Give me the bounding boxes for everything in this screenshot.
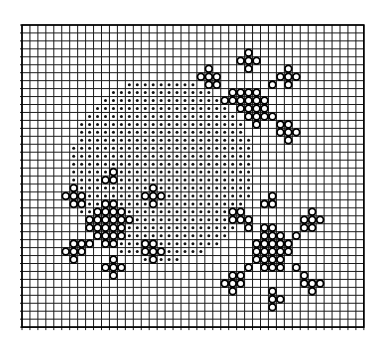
- ring-marker: [221, 97, 228, 104]
- ring-marker: [110, 177, 117, 184]
- ring-marker: [237, 89, 244, 96]
- ring-marker: [142, 248, 149, 255]
- ring-marker: [261, 105, 268, 112]
- ring-marker: [261, 264, 268, 271]
- ring-marker: [70, 185, 77, 192]
- ring-marker: [269, 200, 276, 207]
- ring-marker: [285, 248, 292, 255]
- ring-marker: [110, 216, 117, 223]
- ring-marker: [253, 256, 260, 263]
- ring-marker: [158, 248, 165, 255]
- ring-marker: [301, 280, 308, 287]
- ring-marker: [285, 65, 292, 72]
- ring-marker: [269, 240, 276, 247]
- ring-marker: [269, 264, 276, 271]
- ring-marker: [110, 208, 117, 215]
- ring-marker: [102, 232, 109, 239]
- ring-marker: [237, 97, 244, 104]
- ring-marker: [277, 296, 284, 303]
- ring-marker: [229, 208, 236, 215]
- ring-marker: [245, 97, 252, 104]
- ring-marker: [110, 264, 117, 271]
- ring-marker: [245, 57, 252, 64]
- ring-marker: [245, 65, 252, 72]
- ring-marker: [245, 224, 252, 231]
- ring-marker: [150, 185, 157, 192]
- ring-marker: [102, 208, 109, 215]
- ring-marker: [110, 256, 117, 263]
- ring-marker: [261, 232, 268, 239]
- ring-marker: [269, 256, 276, 263]
- ring-marker: [150, 248, 157, 255]
- ring-marker: [102, 216, 109, 223]
- ring-marker: [142, 193, 149, 200]
- ring-marker: [261, 97, 268, 104]
- ring-marker: [293, 232, 300, 239]
- ring-marker: [301, 272, 308, 279]
- ring-marker: [269, 224, 276, 231]
- ring-marker: [102, 200, 109, 207]
- ring-marker: [118, 208, 125, 215]
- ring-marker: [237, 57, 244, 64]
- ring-marker: [253, 248, 260, 255]
- ring-marker: [253, 105, 260, 112]
- ring-marker: [229, 272, 236, 279]
- ring-marker: [150, 200, 157, 207]
- ring-marker: [317, 280, 324, 287]
- ring-marker: [150, 256, 157, 263]
- ring-marker: [150, 240, 157, 247]
- ring-marker: [78, 200, 85, 207]
- ring-marker: [285, 129, 292, 136]
- ring-marker: [205, 81, 212, 88]
- ring-marker: [86, 216, 93, 223]
- ring-marker: [309, 216, 316, 223]
- ring-marker: [86, 224, 93, 231]
- ring-marker: [285, 137, 292, 144]
- ring-marker: [229, 280, 236, 287]
- ring-marker: [126, 216, 133, 223]
- ring-marker: [245, 105, 252, 112]
- ring-marker: [277, 256, 284, 263]
- ring-marker: [245, 113, 252, 120]
- ring-marker: [70, 240, 77, 247]
- ring-marker: [277, 121, 284, 128]
- ring-marker: [253, 97, 260, 104]
- ring-marker: [261, 240, 268, 247]
- ring-marker: [269, 248, 276, 255]
- ring-marker: [309, 288, 316, 295]
- ring-marker: [261, 248, 268, 255]
- ring-marker: [277, 129, 284, 136]
- ring-marker: [229, 288, 236, 295]
- ring-marker: [213, 81, 220, 88]
- ring-marker: [309, 280, 316, 287]
- ring-marker: [285, 121, 292, 128]
- ring-marker: [150, 193, 157, 200]
- ring-marker: [110, 272, 117, 279]
- ring-marker: [269, 296, 276, 303]
- ring-marker: [70, 200, 77, 207]
- ring-marker: [237, 216, 244, 223]
- ring-marker: [102, 224, 109, 231]
- ring-marker: [86, 240, 93, 247]
- ring-marker: [301, 216, 308, 223]
- ring-marker: [237, 208, 244, 215]
- ring-marker: [317, 216, 324, 223]
- ring-marker: [205, 65, 212, 72]
- ring-marker: [78, 193, 85, 200]
- ring-marker: [269, 113, 276, 120]
- ring-marker: [261, 200, 268, 207]
- ring-marker: [229, 97, 236, 104]
- ring-marker: [70, 248, 77, 255]
- ring-marker: [237, 105, 244, 112]
- ring-marker: [253, 57, 260, 64]
- ring-marker: [221, 280, 228, 287]
- ring-marker: [277, 248, 284, 255]
- ring-marker: [110, 240, 117, 247]
- ring-marker: [102, 264, 109, 271]
- ring-marker: [245, 216, 252, 223]
- ring-marker: [118, 232, 125, 239]
- ring-marker: [94, 216, 101, 223]
- ring-marker: [197, 73, 204, 80]
- ring-marker: [261, 224, 268, 231]
- ring-marker: [70, 256, 77, 263]
